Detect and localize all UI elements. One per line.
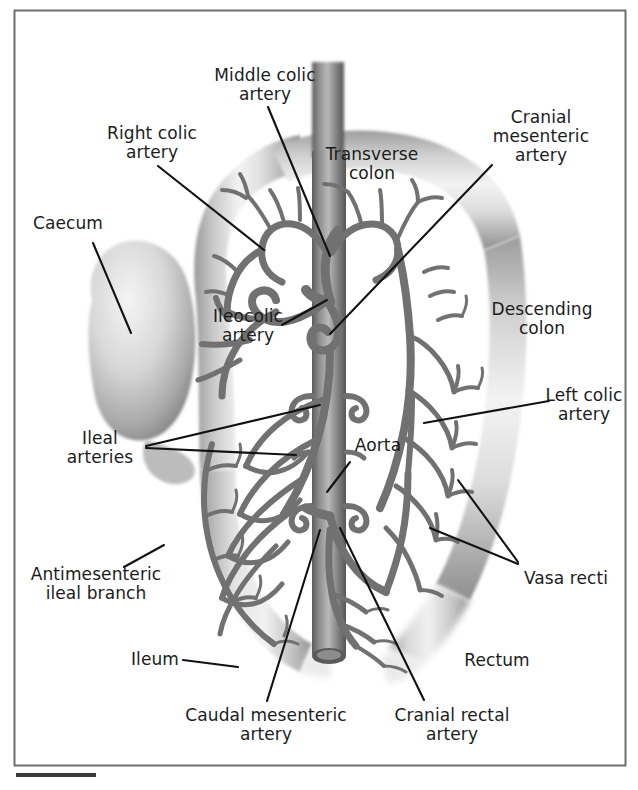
label-caudal-mesenteric-artery: Caudal mesenteric artery bbox=[185, 706, 346, 744]
label-ileocolic-artery: Ileocolic artery bbox=[213, 307, 283, 345]
vasa-recti-transverse-7 bbox=[380, 190, 382, 226]
figure-root: Middle colic artery Right colic artery C… bbox=[0, 0, 638, 790]
label-right-colic-artery: Right colic artery bbox=[107, 124, 197, 162]
label-ileal-arteries: Ileal arteries bbox=[67, 429, 133, 467]
label-transverse-colon: Transverse colon bbox=[326, 145, 419, 183]
label-rectum: Rectum bbox=[464, 651, 529, 670]
vasa-recti-transverse-3 bbox=[298, 188, 300, 220]
label-descending-colon: Descending colon bbox=[491, 300, 592, 338]
label-vasa-recti: Vasa recti bbox=[524, 569, 608, 588]
label-antimesenteric-ileal-branch: Antimesenteric ileal branch bbox=[31, 565, 162, 603]
scale-bar bbox=[16, 773, 96, 777]
vasa-recti-desc-8 bbox=[436, 514, 438, 540]
label-left-colic-artery: Left colic artery bbox=[546, 386, 623, 424]
aorta-lumen bbox=[317, 650, 341, 660]
label-caecum: Caecum bbox=[33, 214, 103, 233]
label-cranial-rectal-artery: Cranial rectal artery bbox=[395, 706, 510, 744]
label-aorta: Aorta bbox=[355, 436, 401, 455]
label-ileum: Ileum bbox=[131, 650, 179, 669]
label-cranial-mesenteric-artery: Cranial mesenteric artery bbox=[493, 108, 589, 165]
label-middle-colic-artery: Middle colic artery bbox=[214, 66, 315, 104]
